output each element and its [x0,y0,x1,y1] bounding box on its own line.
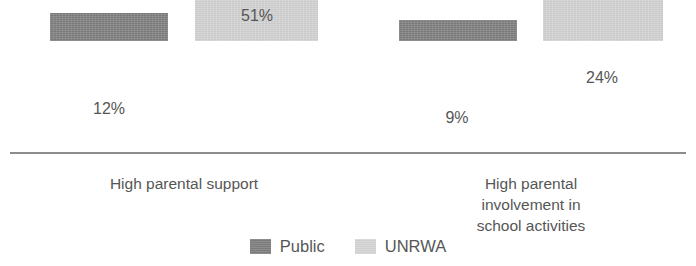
value-label-unrwa-high-parental-support: 51% [241,8,273,24]
legend-item-unrwa[interactable]: UNRWA [355,238,446,255]
category-label-high-parental-support: High parental support [110,173,258,194]
category-label-high-parental-involvement: High parental involvement in school acti… [449,173,614,236]
chart-legend: Public UNRWA [0,238,696,255]
value-label-public-high-parental-support: 12% [93,101,125,117]
bar-chart: 12% 51% 9% 24% High parental support Hig… [0,0,696,266]
value-label-public-high-parental-involvement: 9% [445,110,468,126]
legend-label-unrwa: UNRWA [385,238,446,255]
legend-swatch-public-icon [250,239,271,254]
baseline-axis [10,152,686,154]
plot-area: 12% 51% 9% 24% [0,0,696,155]
legend-item-public[interactable]: Public [250,238,325,255]
bar-public-high-parental-involvement [399,20,517,41]
legend-label-public: Public [280,238,325,255]
legend-swatch-unrwa-icon [355,239,376,254]
value-label-unrwa-high-parental-involvement: 24% [586,70,618,86]
bar-unrwa-high-parental-involvement [543,0,663,41]
bar-public-high-parental-support [50,13,168,42]
